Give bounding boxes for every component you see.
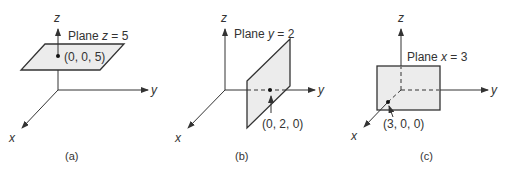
coordinate-planes-figure: z y x Plane z = 5 (0, 0, 5) (a) z y x Pl… <box>0 0 513 174</box>
caption-c: (c) <box>420 150 433 162</box>
point-label: (0, 0, 5) <box>64 50 105 64</box>
point-label: (3, 0, 0) <box>383 117 424 131</box>
x-axis-label: x <box>350 129 358 143</box>
z-axis-label: z <box>220 11 227 25</box>
x-axis-label: x <box>174 131 182 145</box>
x-axis <box>22 90 58 128</box>
plane-label: Plane z = 5 <box>68 29 129 43</box>
panel-a: z y x Plane z = 5 (0, 0, 5) (a) <box>8 11 158 162</box>
z-axis-label: z <box>397 11 404 25</box>
caption-b: (b) <box>235 150 248 162</box>
point-0-2-0 <box>268 88 272 92</box>
panel-b: z y x Plane y = 2 (0, 2, 0) (b) <box>174 11 325 162</box>
plane-y-2 <box>247 39 290 128</box>
y-axis-label: y <box>150 83 158 97</box>
plane-label: Plane y = 2 <box>234 27 295 41</box>
point-3-0-0 <box>386 100 390 104</box>
z-axis-label: z <box>53 11 60 25</box>
x-axis-label: x <box>8 131 16 145</box>
point-0-0-5 <box>56 54 60 58</box>
caption-a: (a) <box>65 150 78 162</box>
x-axis <box>188 90 225 128</box>
y-axis-label: y <box>490 83 498 97</box>
y-axis-label: y <box>317 83 325 97</box>
panel-c: z y x Plane x = 3 (3, 0, 0) (c) <box>350 11 498 162</box>
plane-label: Plane x = 3 <box>407 50 468 64</box>
point-label: (0, 2, 0) <box>262 117 303 131</box>
